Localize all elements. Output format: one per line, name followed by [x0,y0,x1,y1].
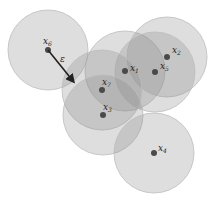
point-x1 [122,68,128,74]
point-x7 [99,87,105,93]
epsilon-neighborhood-diagram: x6x1x2x5x7x3x4 ε [0,0,215,204]
point-x2 [164,54,170,60]
point-x3 [100,112,106,118]
epsilon-label: ε [60,54,65,64]
point-x5 [152,69,158,75]
point-x4 [151,150,157,156]
